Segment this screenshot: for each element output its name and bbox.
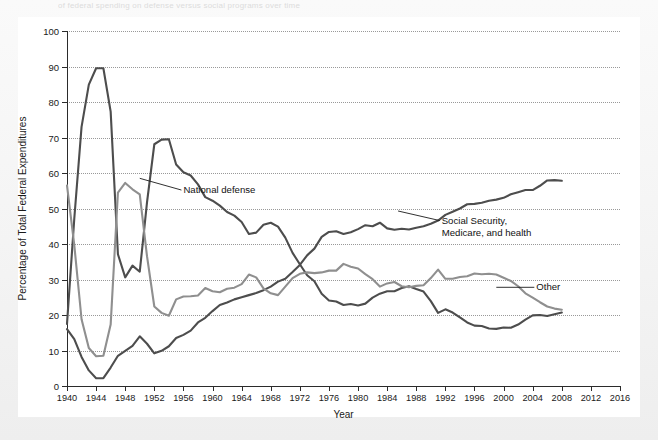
y-axis-tick-label: 20 bbox=[48, 310, 59, 321]
annotation-leader-line bbox=[140, 178, 182, 190]
x-axis-tick-label: 1992 bbox=[435, 393, 455, 403]
x-axis-tick-label: 1956 bbox=[173, 393, 193, 403]
x-axis-tick-label: 1996 bbox=[464, 393, 484, 403]
x-axis-tick-label: 2012 bbox=[581, 393, 601, 403]
x-axis-tick-label: 1944 bbox=[86, 393, 106, 403]
x-axis-tick bbox=[125, 386, 126, 391]
series-label-national-defense: National defense bbox=[183, 184, 255, 196]
x-axis-line bbox=[67, 386, 620, 387]
x-axis-tick bbox=[96, 386, 97, 391]
series-line bbox=[67, 183, 562, 356]
y-axis-tick-label: 0 bbox=[54, 381, 59, 392]
figure-root: of federal spending on defense versus so… bbox=[0, 0, 658, 440]
x-axis-tick-label: 1984 bbox=[377, 393, 397, 403]
x-axis-title: Year bbox=[67, 409, 620, 420]
series-label-social-security: Social Security, Medicare, and health bbox=[442, 215, 562, 239]
y-axis-title-text: Percentage of Total Federal Expenditures bbox=[18, 117, 29, 301]
x-axis-tick bbox=[358, 386, 359, 391]
y-axis-tick-label: 80 bbox=[48, 97, 59, 108]
faint-caption-text: of federal spending on defense versus so… bbox=[58, 0, 618, 12]
x-axis-tick-label: 1952 bbox=[144, 393, 164, 403]
x-axis-tick-label: 1948 bbox=[115, 393, 135, 403]
x-axis-tick bbox=[504, 386, 505, 391]
y-axis-tick-label: 50 bbox=[48, 203, 59, 214]
x-axis-tick-label: 1988 bbox=[406, 393, 426, 403]
x-axis-tick-label: 1968 bbox=[261, 393, 281, 403]
x-axis-tick-label: 2004 bbox=[522, 393, 542, 403]
x-axis-tick bbox=[533, 386, 534, 391]
x-axis-tick bbox=[562, 386, 563, 391]
x-axis-tick-label: 2008 bbox=[552, 393, 572, 403]
x-axis-tick-label: 1980 bbox=[348, 393, 368, 403]
x-axis-tick bbox=[445, 386, 446, 391]
x-axis-tick bbox=[300, 386, 301, 391]
x-axis-tick bbox=[416, 386, 417, 391]
x-axis-tick-label: 2000 bbox=[493, 393, 513, 403]
x-axis-tick bbox=[329, 386, 330, 391]
x-axis-tick-label: 1964 bbox=[231, 393, 251, 403]
x-axis-tick bbox=[387, 386, 388, 391]
x-axis-tick bbox=[242, 386, 243, 391]
series-label-other: Other bbox=[536, 281, 560, 293]
x-axis-tick-label: 1960 bbox=[202, 393, 222, 403]
y-axis-tick-label: 100 bbox=[43, 26, 59, 37]
x-axis-tick bbox=[213, 386, 214, 391]
x-axis-tick-label: 1972 bbox=[290, 393, 310, 403]
x-axis-tick-label: 1976 bbox=[319, 393, 339, 403]
x-axis-tick bbox=[591, 386, 592, 391]
x-axis-tick bbox=[620, 386, 621, 391]
x-axis-tick bbox=[154, 386, 155, 391]
annotation-leader-line bbox=[398, 211, 440, 221]
y-axis-title: Percentage of Total Federal Expenditures bbox=[16, 31, 30, 386]
y-axis-tick-label: 30 bbox=[48, 274, 59, 285]
y-axis-tick-label: 70 bbox=[48, 132, 59, 143]
x-axis-tick bbox=[67, 386, 68, 391]
plot-area: 0102030405060708090100 19401944194819521… bbox=[67, 31, 620, 386]
x-axis-tick bbox=[183, 386, 184, 391]
y-axis-tick-label: 10 bbox=[48, 345, 59, 356]
series-lines-group bbox=[67, 31, 620, 386]
y-axis-tick-label: 90 bbox=[48, 61, 59, 72]
x-axis-tick-label: 1940 bbox=[57, 393, 77, 403]
x-axis-tick bbox=[271, 386, 272, 391]
x-axis-tick-label: 2016 bbox=[610, 393, 630, 403]
y-axis-tick-label: 40 bbox=[48, 239, 59, 250]
x-axis-tick bbox=[474, 386, 475, 391]
chart-panel: Percentage of Total Federal Expenditures… bbox=[18, 17, 640, 417]
y-axis-tick-label: 60 bbox=[48, 168, 59, 179]
